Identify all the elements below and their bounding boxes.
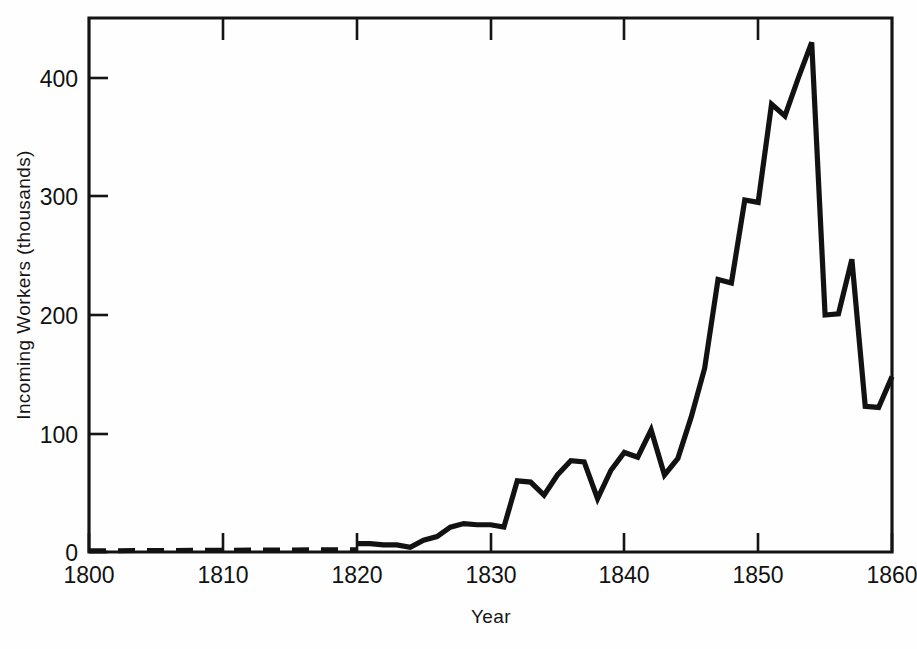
y-tick-labels: 0 100 200 300 400 bbox=[40, 66, 78, 566]
x-tick-label: 1820 bbox=[331, 562, 382, 588]
chart-figure: 0 100 200 300 400 1800 1810 1820 1830 18… bbox=[0, 0, 917, 649]
y-tick-label: 100 bbox=[40, 422, 78, 448]
x-tick-label: 1840 bbox=[598, 562, 649, 588]
y-tick-label: 200 bbox=[40, 303, 78, 329]
x-axis-title: Year bbox=[471, 606, 511, 627]
x-tick-label: 1830 bbox=[465, 562, 516, 588]
y-tick-label: 300 bbox=[40, 184, 78, 210]
y-axis-ticks bbox=[89, 78, 108, 552]
x-tick-label: 1850 bbox=[732, 562, 783, 588]
x-tick-label: 1810 bbox=[197, 562, 248, 588]
x-tick-labels: 1800 1810 1820 1830 1840 1850 1860 bbox=[63, 562, 917, 588]
x-tick-label: 1800 bbox=[63, 562, 114, 588]
plot-frame bbox=[89, 18, 892, 552]
data-line-recorded bbox=[357, 42, 892, 547]
x-tick-label: 1860 bbox=[866, 562, 917, 588]
y-tick-label: 400 bbox=[40, 66, 78, 92]
x-axis-ticks-top bbox=[223, 18, 758, 40]
line-chart: 0 100 200 300 400 1800 1810 1820 1830 18… bbox=[0, 0, 917, 649]
y-axis-title: Incoming Workers (thousands) bbox=[13, 150, 34, 420]
